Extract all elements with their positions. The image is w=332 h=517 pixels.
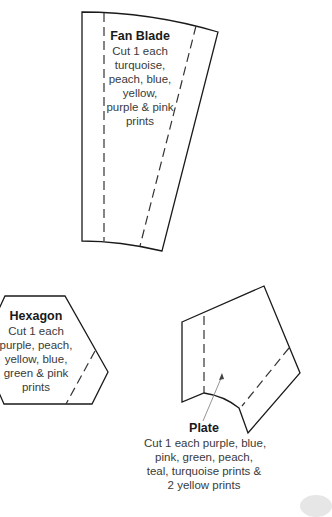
pointer-arrow-icon: [219, 373, 224, 380]
hexagon-line: yellow, blue,: [0, 352, 80, 366]
fan-blade-line: yellow,: [90, 86, 190, 100]
plate-shape: [182, 286, 300, 433]
plate-line: pink, green, peach,: [144, 450, 264, 464]
plate-label: Plate Cut 1 each purple, blue, pink, gre…: [144, 421, 264, 492]
fan-blade-line: peach, blue,: [90, 72, 190, 86]
hexagon-line: prints: [0, 380, 80, 394]
hexagon-line: green & pink: [0, 366, 80, 380]
plate-line: teal, turquoise prints &: [144, 464, 264, 478]
fan-blade-label: Fan Blade Cut 1 each turquoise, peach, b…: [90, 29, 190, 128]
hexagon-title: Hexagon: [0, 309, 80, 324]
hexagon-line: purple, peach,: [0, 338, 80, 352]
pointer-line: [203, 376, 222, 421]
hexagon-label: Hexagon Cut 1 each purple, peach, yellow…: [0, 309, 80, 394]
page-corner-shadow: [300, 495, 332, 517]
hexagon-line: Cut 1 each: [0, 324, 80, 338]
fan-blade-title: Fan Blade: [90, 29, 190, 44]
plate-line: 2 yellow prints: [144, 478, 264, 492]
fan-blade-line: Cut 1 each: [90, 44, 190, 58]
plate-line: Cut 1 each purple, blue,: [144, 436, 264, 450]
fan-blade-line: prints: [90, 114, 190, 128]
plate-title: Plate: [144, 421, 264, 436]
fan-blade-line: turquoise,: [90, 58, 190, 72]
fan-blade-line: purple & pink: [90, 100, 190, 114]
